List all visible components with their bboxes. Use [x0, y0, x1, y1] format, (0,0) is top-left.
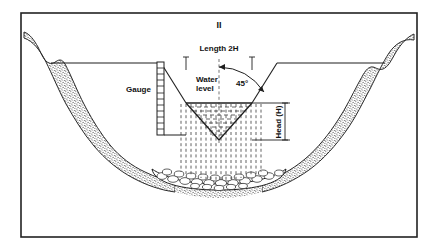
water-level-label-line1: Water: [196, 75, 218, 84]
gauge-staff: [157, 62, 164, 135]
gauge-label: Gauge: [126, 85, 151, 94]
figure-canvas: II Length 2H Water level 45° Gauge Head …: [0, 0, 439, 251]
diagram-svg: II Length 2H Water level 45° Gauge Head …: [0, 0, 439, 251]
water-level-label-line2: level: [196, 84, 214, 93]
head-label: Head (H): [274, 105, 283, 138]
paper-background: [0, 0, 439, 251]
length-label: Length 2H: [199, 44, 238, 53]
figure-number-label: II: [216, 20, 221, 30]
angle-label: 45°: [236, 79, 248, 88]
